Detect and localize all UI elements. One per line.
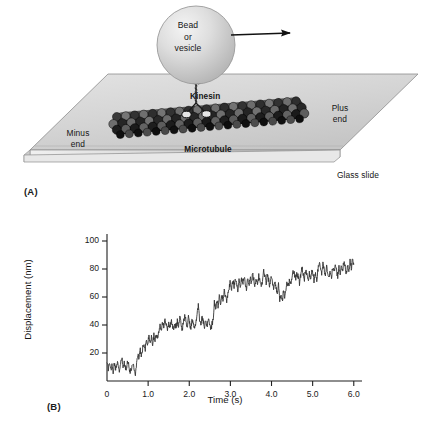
minus-end-label: Minus end bbox=[55, 128, 101, 149]
x-axis-tick-label: 6.0 bbox=[334, 389, 374, 399]
panel-b-chart: 20406080100 01.02.03.04.05.06.0 Displace… bbox=[0, 212, 423, 424]
y-axis-tick-label: 60 bbox=[55, 291, 99, 301]
plot-axes bbox=[107, 234, 362, 381]
x-axis-tick-label: 0 bbox=[87, 389, 127, 399]
microtubule-label: Microtubule bbox=[168, 145, 248, 156]
y-axis-tick-label: 100 bbox=[55, 235, 99, 245]
y-axis-tick-label: 80 bbox=[55, 263, 99, 273]
x-axis-ticks bbox=[148, 381, 354, 386]
kinesin-label: Kinesin bbox=[190, 92, 250, 103]
panel-a-letter: (A) bbox=[24, 186, 38, 197]
y-axis-title: Displacement (nm) bbox=[22, 240, 33, 360]
panel-b-letter: (B) bbox=[47, 401, 61, 412]
x-axis-tick-label: 5.0 bbox=[293, 389, 333, 399]
kinesin-displacement-trace bbox=[107, 259, 354, 376]
y-axis-tick-label: 20 bbox=[55, 347, 99, 357]
y-axis-ticks bbox=[102, 241, 107, 353]
y-axis-tick-label: 40 bbox=[55, 319, 99, 329]
x-axis-title: Time (s) bbox=[160, 394, 290, 405]
kinesin-motility-figure: Bead or vesicle Kinesin Minus end Plus e… bbox=[0, 0, 423, 424]
glass-slide-label: Glass slide bbox=[325, 170, 391, 181]
bead-label: Bead or vesicle bbox=[150, 20, 226, 55]
arrow-right-icon bbox=[231, 30, 291, 37]
panel-a-diagram: Bead or vesicle Kinesin Minus end Plus e… bbox=[0, 0, 423, 212]
plus-end-label: Plus end bbox=[320, 103, 360, 124]
